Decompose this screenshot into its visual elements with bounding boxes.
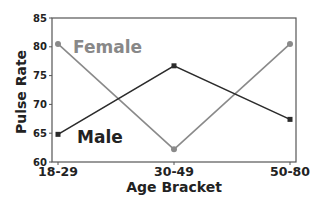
- female-marker: [171, 146, 177, 152]
- y-tick-label: 75: [33, 70, 47, 81]
- male-marker: [172, 63, 177, 68]
- line-chart: 606570758085 18-2930-4950-80 Female Male…: [0, 0, 322, 208]
- female-marker: [287, 41, 293, 47]
- x-tick-label: 18-29: [38, 164, 78, 179]
- male-marker: [56, 132, 61, 137]
- y-axis-title: Pulse Rate: [13, 50, 29, 134]
- y-axis-ticks: 606570758085: [33, 13, 52, 168]
- male-marker: [288, 117, 293, 122]
- x-tick-label: 50-80: [270, 164, 310, 179]
- x-tick-label: 30-49: [154, 164, 194, 179]
- male-series-label: Male: [77, 127, 123, 147]
- y-tick-label: 65: [33, 128, 47, 139]
- x-axis-ticks: 18-2930-4950-80: [38, 162, 310, 179]
- x-axis-title: Age Bracket: [126, 179, 222, 195]
- female-series-label: Female: [73, 37, 142, 57]
- y-tick-label: 80: [33, 41, 47, 52]
- female-marker: [55, 41, 61, 47]
- y-tick-label: 70: [33, 99, 47, 110]
- y-tick-label: 85: [33, 13, 47, 24]
